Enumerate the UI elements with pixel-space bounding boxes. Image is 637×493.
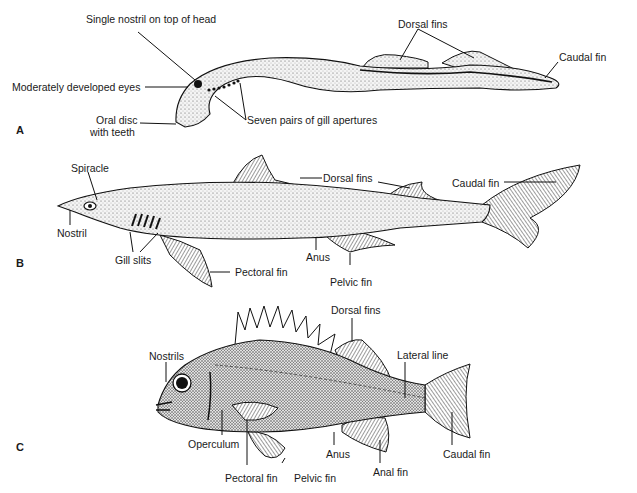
label-gill-slits: Gill slits <box>115 254 151 266</box>
label-lateral-line: Lateral line <box>397 349 448 361</box>
label-operculum: Operculum <box>188 438 239 450</box>
label-dorsal-fins-c: Dorsal fins <box>331 304 381 316</box>
label-anal-fin: Anal fin <box>373 466 408 478</box>
label-seven-pairs-gill-apertures: Seven pairs of gill apertures <box>247 114 377 126</box>
label-pelvic-fin-b: Pelvic fin <box>330 276 372 288</box>
label-spiracle: Spiracle <box>71 162 109 174</box>
label-caudal-fin-b: Caudal fin <box>452 177 499 189</box>
label-dorsal-fins-a: Dorsal fins <box>398 18 448 30</box>
panel-letter-b: B <box>16 257 24 269</box>
label-moderately-developed-eyes: Moderately developed eyes <box>12 81 140 93</box>
label-caudal-fin-a: Caudal fin <box>559 51 606 63</box>
label-dorsal-fins-b: Dorsal fins <box>323 172 373 184</box>
panel-letter-c: C <box>16 441 24 453</box>
panel-a-lamprey <box>138 29 559 127</box>
label-nostrils-c: Nostrils <box>149 350 184 362</box>
label-anus-b: Anus <box>306 251 330 263</box>
panel-letter-a: A <box>16 124 24 136</box>
label-pectoral-fin-c: Pectoral fin <box>225 472 278 484</box>
label-oral-disc-line2: with teeth <box>90 126 135 138</box>
label-single-nostril: Single nostril on top of head <box>86 13 216 25</box>
fish-anatomy-diagram <box>0 0 637 493</box>
label-oral-disc-line1: Oral disc <box>96 114 137 126</box>
label-pectoral-fin-b: Pectoral fin <box>235 266 288 278</box>
panel-b-shark <box>58 155 580 287</box>
label-nostril-b: Nostril <box>57 227 87 239</box>
label-caudal-fin-c: Caudal fin <box>443 448 490 460</box>
label-pelvic-fin-c: Pelvic fin <box>294 472 336 484</box>
label-anus-c: Anus <box>326 448 350 460</box>
